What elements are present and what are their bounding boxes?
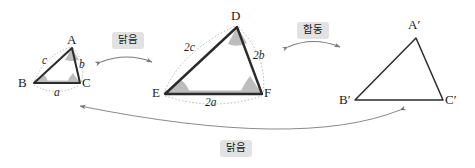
triangle-outline-abc-prime (355, 38, 443, 100)
side-label-2b: 2b (253, 50, 265, 62)
arrow-congruent-right (288, 42, 340, 48)
arrow-similar-bottom (80, 106, 400, 129)
vertex-c-label: C (82, 76, 91, 89)
side-label-b: b (79, 59, 85, 71)
triangle-a-prime-b-prime-c-prime-group (355, 38, 443, 100)
side-label-2c: 2c (184, 42, 195, 54)
vertex-b-label: B (18, 76, 27, 89)
vertex-c-prime-label: C′ (445, 93, 457, 106)
vertex-d-label: D (231, 9, 240, 22)
geometry-figure: A B C c b a D E F 2c 2b 2a A′ B′ C′ 닭음 합… (0, 0, 475, 168)
vertex-e-label: E (152, 86, 160, 99)
relation-tag-congruent-top-right: 합동 (297, 22, 329, 39)
dotted-arc-ed (164, 26, 235, 93)
vertex-b-prime-label: B′ (339, 93, 351, 106)
relation-tag-similar-bottom: 닭음 (220, 140, 252, 157)
side-label-c: c (42, 55, 47, 67)
vertex-f-label: F (264, 86, 271, 99)
large-triangle-def-group (164, 26, 264, 104)
relation-tag-similar-top-left: 닭음 (112, 32, 144, 49)
vertex-a-prime-label: A′ (408, 18, 420, 31)
vertex-a-label: A (67, 33, 76, 46)
side-label-a: a (54, 87, 60, 99)
side-label-2a: 2a (205, 97, 217, 109)
arrow-similar-left (101, 57, 152, 62)
